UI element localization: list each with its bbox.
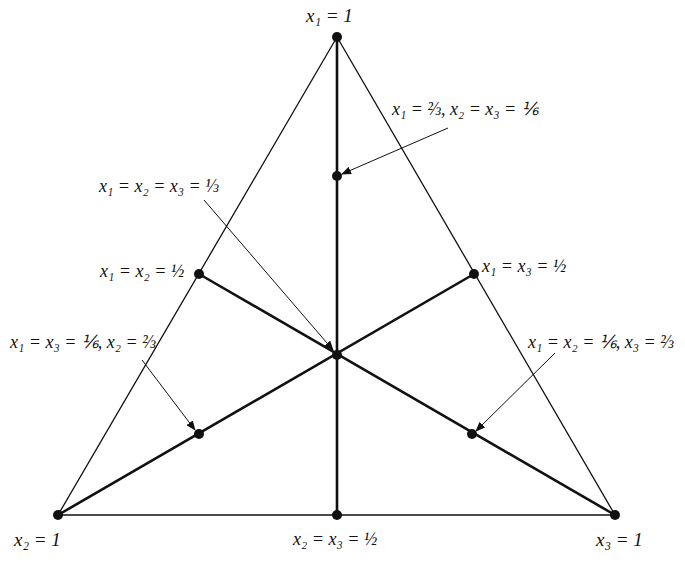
point-center: [332, 350, 342, 360]
point-right-inner: [467, 429, 477, 439]
simplex-diagram: [0, 0, 685, 566]
label-top-inner: x₁ = ⅔, x₂ = x₃ = ⅙: [392, 100, 538, 118]
arrow-left-inner: [142, 360, 195, 430]
point-left-mid: [194, 269, 204, 279]
median-right: [199, 274, 615, 515]
vertex-bottom-right: [610, 510, 620, 520]
point-right-mid: [469, 269, 479, 279]
arrow-top-inner: [342, 128, 448, 174]
label-left: x₂ = 1: [14, 530, 61, 549]
label-bottom-mid: x₂ = x₃ = ½: [293, 530, 377, 548]
label-right-inner: x₁ = x₂ = ⅙, x₃ = ⅔: [528, 333, 674, 351]
point-bottom-mid: [332, 510, 342, 520]
label-top: x₁ = 1: [306, 6, 353, 25]
point-left-inner: [194, 429, 204, 439]
arrow-center: [204, 200, 333, 350]
label-left-inner: x₁ = x₃ = ⅙, x₂ = ⅔: [10, 333, 156, 351]
vertex-bottom-left: [53, 510, 63, 520]
point-top-inner: [332, 171, 342, 181]
median-left: [58, 274, 474, 515]
label-center: x₁ = x₂ = x₃ = ⅓: [99, 177, 219, 195]
label-right-mid: x₁ = x₃ = ½: [482, 257, 566, 275]
label-right: x₃ = 1: [596, 530, 643, 549]
label-left-mid: x₁ = x₂ = ½: [100, 262, 184, 280]
vertex-top: [332, 32, 342, 42]
